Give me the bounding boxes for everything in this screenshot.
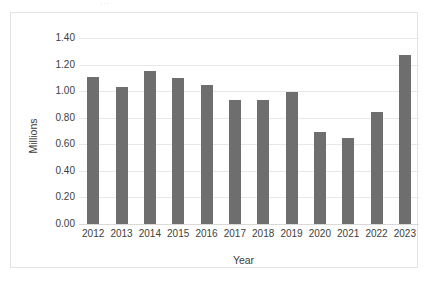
y-tick-label: 0.40 [45,166,75,176]
x-tick-label-2015: 2015 [167,227,189,241]
x-axis-tick-labels: 2012201320142015201620172018201920202021… [79,227,419,243]
y-tick-label: 0.80 [45,113,75,123]
y-tick-label: 1.00 [45,86,75,96]
scan-artifact-top: ··· [100,0,126,9]
bar-2016[interactable] [201,85,213,225]
bar-2021[interactable] [342,138,354,224]
bar-2020[interactable] [314,132,326,224]
bar-2019[interactable] [286,92,298,224]
bar-2017[interactable] [229,100,241,224]
bar-2022[interactable] [371,112,383,224]
x-tick-label-2016: 2016 [195,227,217,241]
gridline-0.00 [79,224,419,225]
y-axis-tick-labels: 0.000.200.400.600.801.001.201.40 [45,38,75,224]
x-tick-label-2012: 2012 [82,227,104,241]
x-tick-label-2022: 2022 [365,227,387,241]
bar-2015[interactable] [172,78,184,224]
bar-2018[interactable] [257,100,269,224]
x-axis-title: Year [66,254,421,266]
bar-2013[interactable] [116,87,128,224]
bar-2023[interactable] [399,55,411,224]
bar-2014[interactable] [144,71,156,224]
y-tick-label: 1.40 [45,33,75,43]
x-tick-label-2013: 2013 [110,227,132,241]
x-tick-label-2019: 2019 [280,227,302,241]
x-tick-label-2018: 2018 [252,227,274,241]
x-tick-label-2017: 2017 [224,227,246,241]
y-axis-title: Millions [25,101,39,171]
y-axis-title-text: Millions [26,118,38,153]
x-tick-label-2020: 2020 [309,227,331,241]
plot-area [79,38,419,224]
chart-frame: Millions 0.000.200.400.600.801.001.201.4… [10,12,418,268]
x-tick-label-2021: 2021 [337,227,359,241]
x-tick-label-2023: 2023 [394,227,416,241]
y-tick-label: 0.00 [45,219,75,229]
y-tick-label: 0.60 [45,139,75,149]
x-tick-label-2014: 2014 [139,227,161,241]
y-tick-label: 1.20 [45,60,75,70]
bars-layer [79,38,419,224]
y-tick-label: 0.20 [45,192,75,202]
bar-2012[interactable] [87,77,99,224]
